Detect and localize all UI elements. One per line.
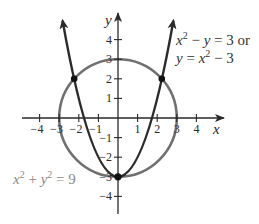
graph-figure: −4 −3 −2 −1 1 2 3 4 4 3 2 1 −1 −2 −3 −4 … [0, 0, 259, 224]
parabola-equation-label-line2: y = x2 − 3 [174, 48, 234, 66]
parabola-equation-label-line1: x2 − y = 3 or [175, 30, 250, 48]
svg-text:−4: −4 [99, 189, 112, 203]
circle-equation-label: x2 + y2 = 9 [12, 169, 76, 187]
svg-text:−2: −2 [70, 122, 83, 136]
svg-text:1: 1 [135, 122, 141, 136]
svg-text:3: 3 [174, 122, 180, 136]
svg-text:−3: −3 [50, 122, 63, 136]
svg-text:2: 2 [154, 122, 160, 136]
svg-text:−4: −4 [31, 122, 44, 136]
intersection-point-left [71, 76, 78, 83]
svg-text:−3: −3 [99, 170, 112, 184]
svg-text:4: 4 [106, 33, 112, 47]
intersection-point-right [159, 76, 166, 83]
svg-text:−1: −1 [99, 131, 112, 145]
x-tick-labels: −4 −3 −2 −1 1 2 3 4 [31, 122, 200, 136]
intersection-point-bottom [114, 173, 121, 180]
svg-text:1: 1 [106, 91, 112, 105]
svg-text:4: 4 [193, 122, 199, 136]
svg-text:3: 3 [106, 52, 112, 66]
svg-text:2: 2 [106, 72, 112, 86]
svg-text:−2: −2 [99, 150, 112, 164]
y-axis-label: y [103, 12, 112, 28]
x-axis-label: x [212, 121, 220, 137]
